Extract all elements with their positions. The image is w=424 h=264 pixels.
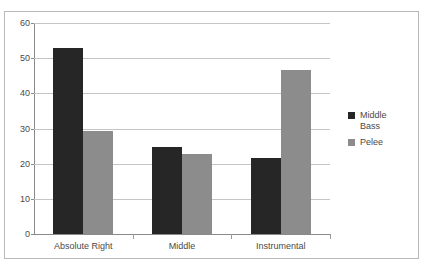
legend-swatch-icon <box>348 112 355 119</box>
bar-middle-bass-absolute-right <box>53 48 83 234</box>
x-axis-category-label: Instrumental <box>221 241 341 252</box>
x-axis-baseline <box>34 234 330 235</box>
y-axis-tick-label: 0 <box>4 230 30 239</box>
y-axis-tick-label: 50 <box>4 54 30 63</box>
bar-middle-bass-instrumental <box>251 158 281 234</box>
x-axis-group-separator <box>133 234 134 239</box>
gridline <box>34 23 330 24</box>
bar-chart: 0102030405060 Absolute RightMiddleInstru… <box>0 0 424 264</box>
chart-legend: Middle BassPelee <box>348 110 414 153</box>
x-axis-group-separator <box>330 234 331 239</box>
y-axis-tick-label: 30 <box>4 125 30 134</box>
bar-pelee-absolute-right <box>83 131 113 234</box>
y-axis-tick-label: 40 <box>4 89 30 98</box>
y-axis-tick-mark <box>31 164 34 165</box>
y-axis-tick-mark <box>31 93 34 94</box>
bar-pelee-middle <box>182 154 212 234</box>
x-axis-group-separator <box>231 234 232 239</box>
legend-item-middle-bass[interactable]: Middle Bass <box>348 110 414 132</box>
y-axis-tick-labels: 0102030405060 <box>0 0 30 264</box>
y-axis-tick-mark <box>31 199 34 200</box>
y-axis-tick-label: 20 <box>4 160 30 169</box>
y-axis-tick-mark <box>31 234 34 235</box>
legend-swatch-icon <box>348 139 355 146</box>
legend-item-pelee[interactable]: Pelee <box>348 137 414 148</box>
y-axis-tick-mark <box>31 23 34 24</box>
bar-middle-bass-middle <box>152 147 182 234</box>
y-axis-tick-label: 60 <box>4 19 30 28</box>
y-axis-tick-mark <box>31 58 34 59</box>
y-axis-tick-label: 10 <box>4 195 30 204</box>
legend-item-label: Middle Bass <box>360 110 408 132</box>
bar-pelee-instrumental <box>281 70 311 234</box>
legend-item-label: Pelee <box>360 137 383 148</box>
plot-area <box>34 23 330 234</box>
y-axis-tick-mark <box>31 129 34 130</box>
